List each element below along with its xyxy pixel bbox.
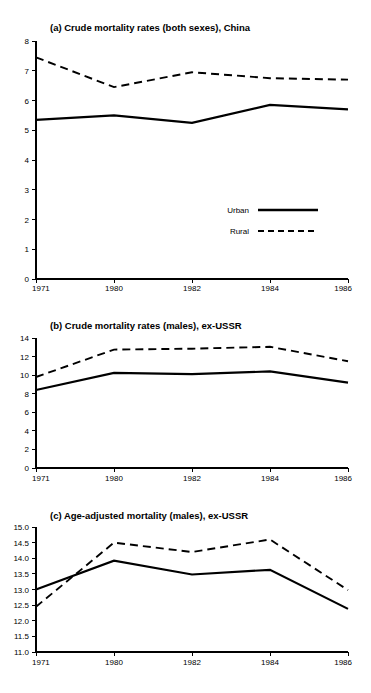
chart-b-canvas: (b) Crude mortality rates (males), ex-US… xyxy=(0,300,371,492)
x-tick-label-c-0: 1971 xyxy=(32,658,50,667)
chart-panel-b: (b) Crude mortality rates (males), ex-US… xyxy=(0,300,371,492)
y-tick-label-b-0: 0 xyxy=(25,464,30,473)
y-tick-label-c-6: 14.0 xyxy=(13,554,29,563)
y-tick-label-c-7: 14.5 xyxy=(13,539,29,548)
legend-label-urban: Urban xyxy=(227,206,249,215)
x-tick-label-b-0: 1971 xyxy=(32,474,50,483)
y-tick-label-b-3: 6 xyxy=(25,408,30,417)
y-tick-label-c-8: 15.0 xyxy=(13,523,29,532)
y-tick-label-a-0: 0 xyxy=(25,275,30,284)
legend-label-rural: Rural xyxy=(230,227,249,236)
chart-title-c: (c) Age-adjusted mortality (males), ex-U… xyxy=(50,510,248,521)
mortality-rates-figure: (a) Crude mortality rates (both sexes), … xyxy=(0,0,371,693)
y-tick-label-c-1: 11.5 xyxy=(14,632,30,641)
y-tick-label-c-5: 13.5 xyxy=(13,570,29,579)
y-tick-label-b-7: 14 xyxy=(20,334,29,343)
chart-title-b: (b) Crude mortality rates (males), ex-US… xyxy=(50,320,242,331)
y-tick-label-c-3: 12.5 xyxy=(13,601,29,610)
x-tick-label-a-2: 1982 xyxy=(183,284,201,292)
chart-title-a: (a) Crude mortality rates (both sexes), … xyxy=(50,22,251,33)
y-tick-label-b-4: 8 xyxy=(25,390,30,399)
y-tick-label-b-6: 12 xyxy=(20,353,29,362)
y-tick-label-a-5: 5 xyxy=(25,126,30,135)
y-tick-label-c-4: 13.0 xyxy=(13,586,29,595)
y-tick-label-b-1: 2 xyxy=(25,445,30,454)
y-tick-label-a-4: 4 xyxy=(25,156,30,165)
x-tick-label-b-1: 1980 xyxy=(105,474,123,483)
series-line-a-rural xyxy=(36,57,348,87)
series-line-b-rural xyxy=(36,347,348,377)
x-tick-label-a-0: 1971 xyxy=(32,284,50,292)
x-tick-label-a-1: 1980 xyxy=(105,284,123,292)
chart-a-canvas: (a) Crude mortality rates (both sexes), … xyxy=(0,0,371,292)
y-tick-label-a-6: 6 xyxy=(25,97,30,106)
x-tick-label-b-4: 1986 xyxy=(334,474,352,483)
x-tick-label-c-1: 1980 xyxy=(105,658,123,667)
y-tick-label-b-5: 10 xyxy=(20,371,29,380)
y-tick-label-c-2: 12.0 xyxy=(13,617,29,626)
series-line-a-urban xyxy=(36,105,348,123)
y-tick-label-c-0: 11.0 xyxy=(14,648,30,657)
x-tick-label-c-2: 1982 xyxy=(183,658,201,667)
y-tick-label-a-3: 3 xyxy=(25,186,30,195)
chart-c-canvas: (c) Age-adjusted mortality (males), ex-U… xyxy=(0,498,371,693)
x-tick-label-b-3: 1984 xyxy=(261,474,279,483)
series-line-c-urban xyxy=(36,561,348,609)
x-tick-label-b-2: 1982 xyxy=(183,474,201,483)
y-tick-label-b-2: 4 xyxy=(25,427,30,436)
x-tick-label-a-4: 1986 xyxy=(334,284,352,292)
chart-panel-a: (a) Crude mortality rates (both sexes), … xyxy=(0,0,371,292)
series-line-b-urban xyxy=(36,371,348,390)
x-tick-label-a-3: 1984 xyxy=(261,284,279,292)
x-tick-label-c-4: 1986 xyxy=(334,658,352,667)
x-tick-label-c-3: 1984 xyxy=(261,658,279,667)
y-tick-label-a-8: 8 xyxy=(25,37,30,46)
y-tick-label-a-1: 1 xyxy=(25,245,30,254)
y-tick-label-a-2: 2 xyxy=(25,216,30,225)
chart-panel-c: (c) Age-adjusted mortality (males), ex-U… xyxy=(0,498,371,693)
y-tick-label-a-7: 7 xyxy=(25,67,30,76)
